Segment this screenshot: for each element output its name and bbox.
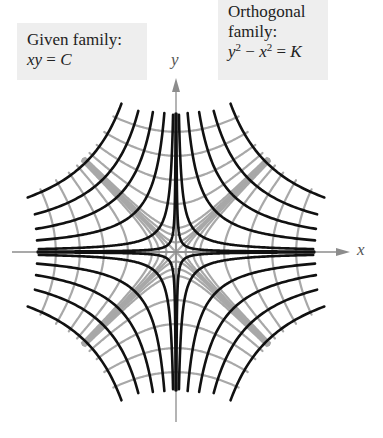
eq-rhs: K xyxy=(290,42,301,61)
orthogonal-family-title-1: Orthogonal xyxy=(228,2,318,22)
eq-lhs: xy xyxy=(27,50,42,69)
x-axis-arrow-icon xyxy=(336,248,350,256)
x-axis-label: x xyxy=(357,240,365,260)
orthogonal-family-label: Orthogonal family: y2 − x2 = K xyxy=(218,0,328,80)
eq-sign: = xyxy=(276,42,286,61)
eq-x: x xyxy=(259,42,267,61)
eq-y: y xyxy=(228,42,236,61)
given-family-equation: xy = C xyxy=(27,50,137,70)
given-family-label: Given family: xy = C xyxy=(17,23,147,80)
eq-sign: = xyxy=(46,50,56,69)
eq-rhs: C xyxy=(60,50,71,69)
y-axis-label: y xyxy=(171,50,179,70)
orthogonal-family-equation: y2 − x2 = K xyxy=(228,42,318,62)
eq-x-exp: 2 xyxy=(267,41,273,53)
eq-y-exp: 2 xyxy=(236,41,242,53)
orthogonal-family-title-2: family: xyxy=(228,22,318,42)
y-axis-arrow-icon xyxy=(172,78,180,92)
given-family-title: Given family: xyxy=(27,30,137,50)
eq-minus: − xyxy=(245,42,255,61)
